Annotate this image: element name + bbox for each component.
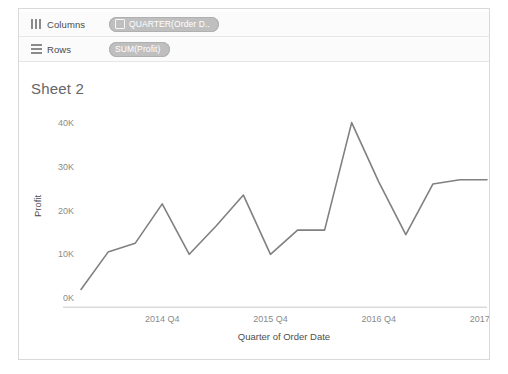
x-axis-tick-label: 2016 Q4 [361, 314, 395, 324]
pill-sum-profit-label: SUM(Profit) [115, 44, 161, 54]
rows-icon [25, 44, 47, 54]
y-axis-tick-label: 30K [58, 162, 74, 172]
calendar-icon [115, 19, 125, 29]
pill-quarter-order-date-label: QUARTER(Order D.. [129, 19, 210, 29]
y-axis-tick-label: 40K [58, 118, 74, 128]
worksheet-frame: Columns QUARTER(Order D.. Rows SUM(Profi [18, 8, 490, 360]
chart-view: Sheet 2 0K10K20K30K40KProfit2014 Q42015 … [19, 66, 489, 359]
y-axis-tick-label: 20K [58, 206, 74, 216]
pill-sum-profit[interactable]: SUM(Profit) [109, 42, 170, 57]
rows-shelf[interactable]: Rows SUM(Profit) [19, 37, 489, 62]
profit-line-series[interactable] [81, 123, 487, 290]
line-chart[interactable]: 0K10K20K30K40KProfit2014 Q42015 Q42016 Q… [19, 66, 489, 359]
x-axis-title: Quarter of Order Date [238, 331, 330, 342]
x-axis-tick-label: 2015 Q4 [253, 314, 287, 324]
y-axis-tick-label: 0K [63, 293, 74, 303]
x-axis-tick-label: 2014 Q4 [145, 314, 179, 324]
x-axis-tick-label: 2017 Q4 [470, 314, 489, 324]
columns-shelf[interactable]: Columns QUARTER(Order D.. [19, 12, 489, 37]
y-axis-tick-label: 10K [58, 250, 74, 260]
y-axis-title: Profit [32, 195, 43, 217]
rows-shelf-label: Rows [47, 44, 109, 55]
columns-shelf-label: Columns [47, 19, 109, 30]
pill-quarter-order-date[interactable]: QUARTER(Order D.. [109, 17, 219, 32]
tableau-worksheet-screenshot: Columns QUARTER(Order D.. Rows SUM(Profi [0, 0, 508, 374]
columns-icon [25, 19, 47, 29]
shelf-area: Columns QUARTER(Order D.. Rows SUM(Profi [19, 9, 489, 66]
